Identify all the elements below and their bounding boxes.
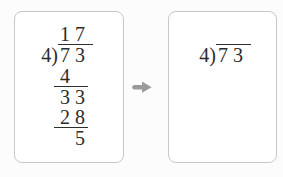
- divisor-cell: 4): [41, 45, 58, 65]
- worksheet: 17 4) 73 4 33 28 5 4) 73: [0, 0, 283, 177]
- step-subtract-1: 4: [54, 66, 88, 87]
- right-arrow-icon: [132, 79, 153, 95]
- divisor-cell: 4): [199, 45, 216, 65]
- long-division-worked: 17 4) 73 4 33 28 5: [15, 12, 93, 148]
- division-bracket-icon: ): [51, 44, 58, 66]
- long-division-blank: 4) 73: [169, 12, 251, 64]
- divisor: 4: [199, 44, 209, 66]
- worked-example-card: 17 4) 73 4 33 28 5: [14, 11, 124, 163]
- step-subtract-2: 28: [54, 107, 88, 128]
- quotient-row: 17: [41, 24, 93, 44]
- practice-card: 4) 73: [168, 11, 277, 163]
- remainder: 5: [60, 128, 85, 148]
- division-bracket-icon: ): [209, 44, 216, 66]
- problem-row: 4) 73: [41, 44, 93, 64]
- problem-row: 4) 73: [199, 44, 251, 64]
- step-bring-down: 33: [60, 87, 85, 107]
- quotient: 17: [60, 24, 90, 44]
- arrow-head: [142, 82, 152, 93]
- dividend: 73: [58, 44, 93, 65]
- dividend: 73: [216, 44, 251, 65]
- divisor: 4: [41, 44, 51, 66]
